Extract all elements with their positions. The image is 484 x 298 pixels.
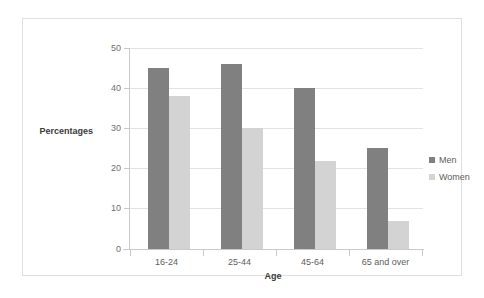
- x-tick-mark-0: [130, 250, 131, 256]
- bar-women-65-and-over: [388, 221, 409, 249]
- y-tick-label-0: 0: [97, 244, 121, 254]
- legend-label-men: Men: [439, 155, 457, 165]
- chart-container: 50 40 30 20 10 0 16-24 25-44 45-64 65 an…: [22, 18, 462, 276]
- legend-item-women: Women: [429, 168, 484, 185]
- x-axis-title: Age: [178, 271, 368, 282]
- y-axis-tick-labels: 50 40 30 20 10 0: [95, 19, 121, 277]
- y-tick-mark-20: [124, 168, 130, 169]
- y-tick-label-10: 10: [97, 203, 121, 213]
- bar-men-65-and-over: [367, 148, 388, 249]
- y-tick-label-40: 40: [97, 83, 121, 93]
- x-axis-line: [123, 249, 424, 250]
- y-tick-mark-50: [124, 48, 130, 49]
- x-tick-label-45-64: 45-64: [276, 257, 349, 268]
- x-tick-mark-1: [203, 250, 204, 256]
- y-axis-line: [129, 48, 130, 250]
- y-tick-mark-30: [124, 128, 130, 129]
- chart-legend: Men Women: [429, 151, 484, 185]
- legend-swatch-women-icon: [429, 174, 435, 180]
- x-tick-mark-2: [276, 250, 277, 256]
- x-tick-mark-3: [349, 250, 350, 256]
- y-tick-label-30: 30: [97, 123, 121, 133]
- gridline-40: [130, 88, 423, 89]
- legend-item-men: Men: [429, 151, 484, 168]
- y-tick-label-20: 20: [97, 163, 121, 173]
- y-tick-label-50: 50: [97, 43, 121, 53]
- legend-label-women: Women: [439, 172, 470, 182]
- x-tick-label-16-24: 16-24: [130, 257, 203, 268]
- x-tick-label-25-44: 25-44: [203, 257, 276, 268]
- y-tick-mark-40: [124, 88, 130, 89]
- bar-men-25-44: [221, 64, 242, 249]
- plot-area: [130, 48, 423, 249]
- bar-women-45-64: [315, 161, 336, 249]
- bar-men-45-64: [294, 88, 315, 249]
- bar-men-16-24: [148, 68, 169, 249]
- bar-women-25-44: [242, 128, 263, 249]
- legend-swatch-men-icon: [429, 157, 435, 163]
- gridline-50: [130, 48, 423, 49]
- y-axis-title: Percentages: [31, 126, 93, 137]
- y-tick-mark-10: [124, 208, 130, 209]
- x-tick-mark-4: [422, 250, 423, 256]
- bar-women-16-24: [169, 96, 190, 249]
- x-tick-label-65-and-over: 65 and over: [349, 257, 422, 268]
